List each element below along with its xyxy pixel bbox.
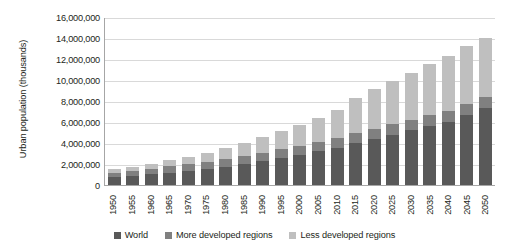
bar-group[interactable] xyxy=(405,18,418,185)
bar-group[interactable] xyxy=(479,18,492,185)
bar-group[interactable] xyxy=(108,18,121,185)
bar-segment[interactable] xyxy=(423,126,436,185)
bar-segment[interactable] xyxy=(238,164,251,185)
bar-segment[interactable] xyxy=(201,162,214,169)
bar-group[interactable] xyxy=(219,18,232,185)
bar-group[interactable] xyxy=(312,18,325,185)
bar-segment[interactable] xyxy=(256,161,269,185)
bar-segment[interactable] xyxy=(368,89,381,128)
x-axis-tick: 1955 xyxy=(125,189,138,223)
bar-segment[interactable] xyxy=(405,73,418,120)
bar-segment[interactable] xyxy=(460,115,473,185)
bar-segment[interactable] xyxy=(386,81,399,124)
bar-segment[interactable] xyxy=(293,146,306,155)
bar-group[interactable] xyxy=(331,18,344,185)
bar-segment[interactable] xyxy=(312,151,325,185)
bar-segment[interactable] xyxy=(108,177,121,185)
bar-segment[interactable] xyxy=(238,156,251,164)
bar-group[interactable] xyxy=(163,18,176,185)
legend-label: Less developed regions xyxy=(300,230,395,240)
legend-label: World xyxy=(125,230,148,240)
bar-segment[interactable] xyxy=(460,104,473,115)
bar-segment[interactable] xyxy=(182,171,195,185)
bar-segment[interactable] xyxy=(219,159,232,167)
bar-segment[interactable] xyxy=(349,143,362,185)
x-axis-tick-label: 2015 xyxy=(350,195,360,215)
bar-segment[interactable] xyxy=(479,38,492,98)
x-axis-tick: 2015 xyxy=(349,189,362,223)
bar-group[interactable] xyxy=(182,18,195,185)
bar-group[interactable] xyxy=(423,18,436,185)
x-axis-tick-label: 2050 xyxy=(480,195,490,215)
bar-segment[interactable] xyxy=(182,157,195,164)
legend-item[interactable]: More developed regions xyxy=(165,230,272,240)
bar-segment[interactable] xyxy=(293,155,306,185)
bar-group[interactable] xyxy=(201,18,214,185)
bar-segment[interactable] xyxy=(201,169,214,185)
x-axis-tick-labels: 1950195519601965197019751980198519901995… xyxy=(104,189,495,223)
bar-group[interactable] xyxy=(368,18,381,185)
legend-item[interactable]: Less developed regions xyxy=(289,230,395,240)
bar-segment[interactable] xyxy=(275,131,288,149)
bar-segment[interactable] xyxy=(256,153,269,162)
bar-segment[interactable] xyxy=(182,164,195,171)
bar-group[interactable] xyxy=(275,18,288,185)
bar-segment[interactable] xyxy=(386,135,399,185)
y-axis-tick-label: 16,000,000 xyxy=(56,14,100,23)
bar-group[interactable] xyxy=(386,18,399,185)
bar-segment[interactable] xyxy=(219,167,232,185)
y-axis-tick-label: 14,000,000 xyxy=(56,35,100,44)
bar-segment[interactable] xyxy=(423,64,436,115)
bar-group[interactable] xyxy=(126,18,139,185)
bar-segment[interactable] xyxy=(405,120,418,131)
bar-segment[interactable] xyxy=(126,176,139,185)
bar-segment[interactable] xyxy=(479,97,492,108)
bar-segment[interactable] xyxy=(349,98,362,134)
bar-segment[interactable] xyxy=(331,148,344,185)
bar-group[interactable] xyxy=(442,18,455,185)
bar-group[interactable] xyxy=(293,18,306,185)
bar-segment[interactable] xyxy=(442,122,455,185)
bar-group[interactable] xyxy=(349,18,362,185)
bar-segment[interactable] xyxy=(275,158,288,185)
bar-segment[interactable] xyxy=(331,138,344,148)
bar-segment[interactable] xyxy=(442,56,455,111)
bar-segment[interactable] xyxy=(386,124,399,134)
bar-segment[interactable] xyxy=(460,46,473,103)
bar-segment[interactable] xyxy=(423,115,436,126)
x-axis-tick: 1980 xyxy=(218,189,231,223)
x-axis-tick: 1990 xyxy=(256,189,269,223)
legend-item[interactable]: World xyxy=(114,230,148,240)
bar-segment[interactable] xyxy=(405,130,418,185)
bar-segment[interactable] xyxy=(312,142,325,151)
x-axis-tick: 1975 xyxy=(200,189,213,223)
bar-segment[interactable] xyxy=(256,137,269,152)
bar-segment[interactable] xyxy=(275,149,288,158)
bar-segment[interactable] xyxy=(442,111,455,122)
bar-segment[interactable] xyxy=(349,133,362,143)
bar-group[interactable] xyxy=(256,18,269,185)
bar-group[interactable] xyxy=(460,18,473,185)
x-axis-tick: 2035 xyxy=(423,189,436,223)
x-axis-tick: 2025 xyxy=(386,189,399,223)
bar-segment[interactable] xyxy=(201,153,214,162)
bar-group[interactable] xyxy=(238,18,251,185)
bar-segment[interactable] xyxy=(331,110,344,138)
bar-group[interactable] xyxy=(145,18,158,185)
legend-swatch-icon xyxy=(289,232,296,239)
bar-segment[interactable] xyxy=(219,148,232,159)
x-axis-tick-label: 2005 xyxy=(313,195,323,215)
plot-area xyxy=(104,18,495,186)
bar-segment[interactable] xyxy=(163,173,176,185)
bar-segment[interactable] xyxy=(368,129,381,139)
y-axis-tick-label: 10,000,000 xyxy=(56,77,100,86)
bar-segment[interactable] xyxy=(479,108,492,185)
bar-segment[interactable] xyxy=(312,118,325,142)
bar-segment[interactable] xyxy=(145,174,158,185)
bar-segment[interactable] xyxy=(238,143,251,156)
x-axis-tick-label: 1960 xyxy=(146,195,156,215)
bar-segment[interactable] xyxy=(368,139,381,185)
bar-segment[interactable] xyxy=(293,125,306,146)
x-axis-tick-label: 2040 xyxy=(443,195,453,215)
x-axis-tick: 2030 xyxy=(405,189,418,223)
